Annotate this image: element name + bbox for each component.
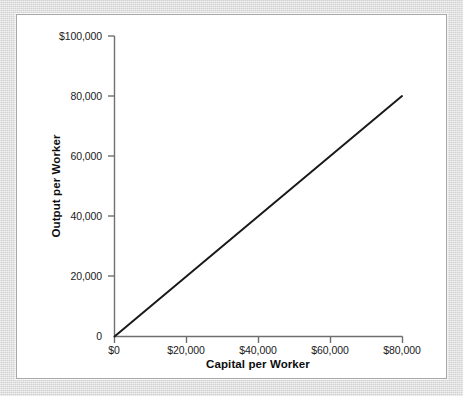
x-axis-title: Capital per Worker [206, 358, 310, 370]
y-tick-label-100000: $100,000 [30, 30, 102, 42]
y-tick-label-0: 0 [30, 330, 102, 342]
x-tick-label-0: $0 [108, 344, 119, 356]
chart-panel [16, 14, 447, 379]
x-tick-label-40000: $40,000 [239, 344, 276, 356]
x-tick-label-60000: $60,000 [311, 344, 348, 356]
y-tick-label-20000: 20,000 [30, 270, 102, 282]
y-axis-title: Output per Worker [50, 134, 62, 237]
y-tick-label-40000: 40,000 [30, 210, 102, 222]
figure-background: $100,000 80,000 60,000 40,000 20,000 0 $… [0, 0, 463, 396]
x-tick-label-80000: $80,000 [383, 344, 420, 356]
y-tick-label-60000: 60,000 [30, 150, 102, 162]
x-tick-label-20000: $20,000 [167, 344, 204, 356]
y-tick-label-80000: 80,000 [30, 90, 102, 102]
